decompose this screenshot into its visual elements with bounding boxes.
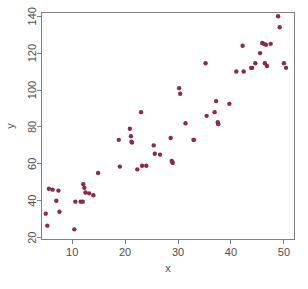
y-tick-label: 40 <box>27 195 39 207</box>
y-tick-label: 120 <box>27 44 39 62</box>
data-point <box>282 61 286 65</box>
data-point <box>265 64 269 68</box>
data-point <box>82 186 86 190</box>
data-point <box>139 110 143 114</box>
data-point <box>56 188 60 192</box>
data-point <box>253 61 257 65</box>
data-point <box>96 171 100 175</box>
x-tick-label: 20 <box>119 246 131 258</box>
x-axis-title: x <box>165 262 171 274</box>
data-point <box>87 191 91 195</box>
data-point <box>117 138 121 142</box>
data-point <box>276 14 280 18</box>
data-point <box>130 140 134 144</box>
data-point <box>83 190 87 194</box>
data-point <box>81 199 85 203</box>
y-tick-label: 100 <box>27 81 39 99</box>
data-point <box>50 187 54 191</box>
data-point <box>72 227 76 231</box>
data-point <box>140 163 144 167</box>
scatter-plot-figure: 1020304050 20406080100120140 x y <box>0 0 308 289</box>
data-point <box>44 211 48 215</box>
data-point <box>73 199 77 203</box>
data-point <box>144 163 148 167</box>
data-point <box>216 122 220 126</box>
data-point <box>203 61 207 65</box>
data-point <box>171 161 175 165</box>
data-point <box>214 99 218 103</box>
data-point <box>204 114 208 118</box>
data-point <box>91 193 95 197</box>
y-axis-title: y <box>4 123 16 129</box>
data-point <box>152 143 156 147</box>
data-point <box>177 86 181 90</box>
data-point <box>241 69 245 73</box>
data-point <box>81 182 85 186</box>
y-tick-label: 80 <box>27 121 39 133</box>
y-tick-label: 60 <box>27 158 39 170</box>
data-point <box>158 152 162 156</box>
data-point <box>258 51 262 55</box>
data-point <box>183 121 187 125</box>
chart-canvas: 1020304050 20406080100120140 x y <box>0 0 308 289</box>
data-point <box>240 44 244 48</box>
data-point <box>135 167 139 171</box>
data-point <box>268 42 272 46</box>
data-point <box>57 210 61 214</box>
y-tick-label: 140 <box>27 7 39 25</box>
data-point <box>192 138 196 142</box>
data-point <box>47 187 51 191</box>
data-point <box>45 223 49 227</box>
data-point <box>284 66 288 70</box>
x-tick-label: 30 <box>172 246 184 258</box>
data-point <box>54 199 58 203</box>
data-point <box>277 25 281 29</box>
data-point <box>128 127 132 131</box>
y-tick-label: 20 <box>27 232 39 244</box>
data-point <box>168 136 172 140</box>
x-tick-label: 50 <box>278 246 290 258</box>
data-point <box>118 164 122 168</box>
data-point <box>250 66 254 70</box>
data-point <box>227 102 231 106</box>
data-point <box>153 151 157 155</box>
data-point <box>212 110 216 114</box>
data-point <box>264 43 268 47</box>
x-tick-label: 40 <box>225 246 237 258</box>
data-point <box>234 69 238 73</box>
data-point <box>178 92 182 96</box>
x-tick-label: 10 <box>66 246 78 258</box>
data-point <box>129 134 133 138</box>
